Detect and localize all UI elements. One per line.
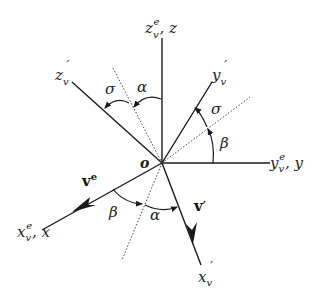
coordinate-frame-diagram: zve, z zv′ yv′ yve, y xve, x xv′ o ve v′…	[0, 0, 322, 289]
origin-label: o	[140, 155, 149, 171]
arc-beta-bottom	[113, 189, 142, 204]
beta-bottom-label: β	[108, 203, 118, 221]
x-axis-label: xve, x	[17, 220, 51, 243]
ve-arrowhead-icon	[72, 197, 96, 212]
z-prime-label: zv′	[54, 59, 70, 87]
y-axis-label: yve, y	[269, 151, 304, 174]
vprime-label: v′	[193, 197, 206, 215]
z-prime-axis	[72, 82, 162, 163]
z-axis-label: zve, z	[144, 16, 177, 40]
alpha-top-label: α	[137, 78, 147, 96]
sigma-right-label: σ	[211, 100, 222, 118]
arc-sigma-top	[105, 100, 129, 108]
arc-sigma-right	[195, 108, 207, 127]
alpha-bottom-label: α	[150, 206, 160, 224]
ve-label: ve	[81, 171, 97, 190]
beta-right-label: β	[219, 134, 229, 152]
dotted-line-right	[162, 97, 250, 163]
arc-beta-right	[208, 129, 213, 163]
x-axis	[42, 163, 162, 230]
sigma-top-label: σ	[105, 80, 116, 98]
y-prime-label: yv′	[211, 59, 227, 87]
arc-alpha-top	[134, 97, 161, 107]
